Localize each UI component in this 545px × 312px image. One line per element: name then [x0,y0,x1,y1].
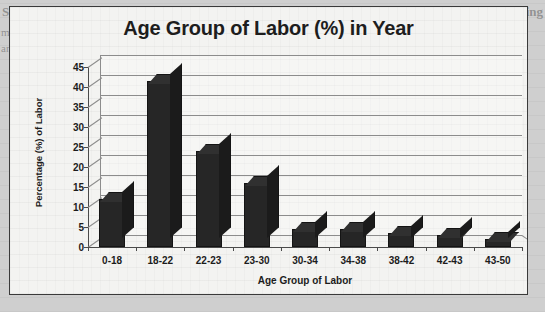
bar-side-face [170,63,182,238]
x-axis-tick [184,247,185,251]
bar [485,239,511,247]
chart-frame: Age Group of Labor (%) in Year Percentag… [9,6,528,295]
x-axis-tick-label: 0-18 [102,255,122,266]
y-axis-tick [84,147,88,148]
x-axis-tick-label: 22-23 [196,255,222,266]
x-axis-tick-label: 18-22 [148,255,174,266]
y-axis-line [88,67,89,247]
x-axis-title: Age Group of Labor [88,275,522,286]
bar [340,229,366,247]
x-axis-tick-label: 42-43 [437,255,463,266]
x-axis-tick-label: 30-34 [292,255,318,266]
y-axis-tick-labels: 051015202530354045 [46,67,84,247]
bar [99,199,125,247]
y-axis-tick [84,107,88,108]
x-axis-tick-label: 38-42 [389,255,415,266]
bar-side-face [267,165,279,238]
y-axis-tick-label: 30 [73,122,84,133]
x-axis-tick [329,247,330,251]
x-axis-tick [136,247,137,251]
x-axis-tick-labels: 0-1818-2222-2323-3030-3434-3838-4242-434… [88,255,522,271]
x-axis-tick [474,247,475,251]
y-axis-tick-label: 10 [73,202,84,213]
x-axis-tick-label: 23-30 [244,255,270,266]
bar [244,183,270,247]
x-axis-tick [522,247,523,251]
bar [292,229,318,247]
x-axis-line [88,247,522,248]
floor-edge-right [522,235,528,246]
x-axis-tick [281,247,282,251]
y-axis-tick [84,167,88,168]
y-axis-tick [84,67,88,68]
plot-area [88,67,522,247]
y-axis-tick-label: 45 [73,62,84,73]
x-axis-tick [377,247,378,251]
y-axis-tick [84,187,88,188]
y-axis-tick-label: 20 [73,162,84,173]
y-axis-tick-label: 25 [73,142,84,153]
bar [388,233,414,247]
y-axis-tick-label: 15 [73,182,84,193]
x-axis-tick [426,247,427,251]
bar [196,151,222,247]
x-axis-tick-label: 43-50 [485,255,511,266]
y-axis-tick [84,207,88,208]
x-axis-tick-label: 34-38 [340,255,366,266]
bar-side-face [219,133,231,238]
x-axis-tick [233,247,234,251]
bar [437,235,463,247]
y-axis-tick-label: 40 [73,82,84,93]
y-axis-tick [84,87,88,88]
y-axis-tick [84,127,88,128]
y-axis-tick-label: 35 [73,102,84,113]
y-axis-title: Percentage (%) of Labor [33,73,44,233]
bar [147,81,173,247]
gridline [100,55,522,56]
x-axis-tick [88,247,89,251]
chart-title: Age Group of Labor (%) in Year [10,17,527,40]
y-axis-tick [84,227,88,228]
